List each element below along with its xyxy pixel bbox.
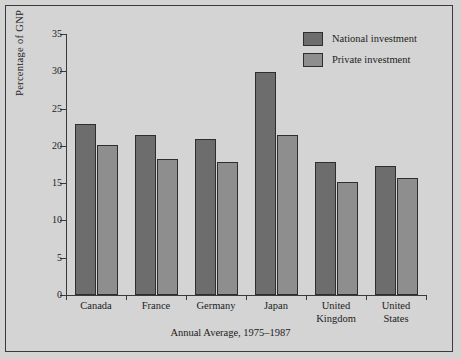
- bar-group: France: [135, 34, 178, 295]
- x-tick-label: France: [135, 299, 178, 312]
- bar-private: [217, 162, 238, 295]
- x-tick-label-line: States: [375, 312, 418, 325]
- bar-national: [375, 166, 396, 295]
- bar-group: Japan: [255, 34, 298, 295]
- x-tick-label-line: United: [375, 299, 418, 312]
- y-axis-line: [66, 34, 67, 295]
- y-tick: 5: [66, 258, 72, 259]
- x-tick-label: UnitedKingdom: [315, 299, 358, 325]
- chart-figure: Percentage of GNP 05101520253035 CanadaF…: [0, 0, 461, 359]
- bar-group: UnitedStates: [375, 34, 418, 295]
- legend-item-private: Private investment: [303, 49, 417, 70]
- x-tick-label: Japan: [255, 299, 298, 312]
- x-tick-label-line: France: [135, 299, 178, 312]
- legend-label-national: National investment: [332, 33, 417, 44]
- bar-private: [97, 145, 118, 295]
- y-tick: 15: [66, 183, 72, 184]
- x-tick-label-line: Kingdom: [315, 312, 358, 325]
- y-tick: 30: [66, 71, 72, 72]
- x-tick-label: Canada: [75, 299, 118, 312]
- y-tick-label: 10: [52, 212, 62, 227]
- x-tick-label-line: Canada: [75, 299, 118, 312]
- x-tick-mark: [126, 295, 127, 300]
- x-tick-label: UnitedStates: [375, 299, 418, 325]
- y-tick: 35: [66, 34, 72, 35]
- chart-legend: National investment Private investment: [303, 28, 417, 70]
- x-tick-label: Germany: [195, 299, 238, 312]
- bar-national: [255, 72, 276, 295]
- legend-label-private: Private investment: [332, 54, 410, 65]
- legend-swatch-private-icon: [303, 53, 323, 67]
- bar-group: UnitedKingdom: [315, 34, 358, 295]
- bar-private: [397, 178, 418, 295]
- bar-private: [157, 159, 178, 295]
- bar-group: Germany: [195, 34, 238, 295]
- x-tick-mark: [186, 295, 187, 300]
- y-tick-label: 5: [57, 250, 62, 265]
- y-tick-label: 15: [52, 175, 62, 190]
- y-tick-label: 25: [52, 101, 62, 116]
- bar-group: Canada: [75, 34, 118, 295]
- bar-national: [195, 139, 216, 295]
- bar-private: [277, 135, 298, 295]
- y-tick-label: 35: [52, 26, 62, 41]
- x-tick-label-line: Japan: [255, 299, 298, 312]
- legend-item-national: National investment: [303, 28, 417, 49]
- bar-national: [75, 124, 96, 295]
- bar-national: [135, 135, 156, 295]
- y-tick-label: 30: [52, 63, 62, 78]
- x-tick-label-line: Germany: [195, 299, 238, 312]
- plot-area: 05101520253035 CanadaFranceGermanyJapanU…: [66, 34, 426, 295]
- bar-private: [337, 182, 358, 295]
- y-tick-label: 0: [57, 287, 62, 302]
- y-axis-label: Percentage of GNP: [14, 10, 25, 96]
- bar-national: [315, 162, 336, 295]
- x-tick-mark: [66, 295, 67, 300]
- y-tick: 10: [66, 220, 72, 221]
- x-tick-label-line: United: [315, 299, 358, 312]
- x-tick-mark: [306, 295, 307, 300]
- x-tick-mark: [426, 295, 427, 300]
- x-tick-mark: [366, 295, 367, 300]
- y-tick-label: 20: [52, 138, 62, 153]
- y-tick: 20: [66, 146, 72, 147]
- chart-caption: Annual Average, 1975–1987: [0, 327, 461, 338]
- y-tick: 25: [66, 109, 72, 110]
- legend-swatch-national-icon: [303, 32, 323, 46]
- x-tick-mark: [246, 295, 247, 300]
